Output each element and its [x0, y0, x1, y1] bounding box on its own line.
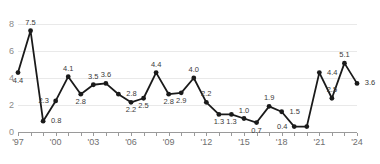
- data-point-label: 4.4: [320, 69, 344, 77]
- data-point-label: 2.9: [169, 97, 193, 105]
- data-point-label: 0.7: [245, 127, 269, 135]
- data-point-label: 1.0: [232, 107, 256, 115]
- data-point-label: 3.6: [358, 79, 380, 87]
- data-point-label: 0.4: [270, 123, 294, 131]
- data-point-label: 4.4: [6, 77, 30, 85]
- data-point-label: 3.6: [94, 71, 118, 79]
- data-point-label: 4.4: [144, 61, 168, 69]
- data-point-label: 2.5: [132, 102, 156, 110]
- data-point-label: 2.2: [194, 90, 218, 98]
- data-point-label: 5.1: [332, 51, 356, 59]
- data-point-label: 0.8: [44, 117, 68, 125]
- data-point-label: 1.5: [283, 108, 307, 116]
- data-point-label: 7.5: [19, 19, 43, 27]
- data-point-label: 2.8: [119, 90, 143, 98]
- data-point-label: 2.5: [320, 86, 344, 94]
- data-point-label: 4.0: [182, 66, 206, 74]
- data-point-label: 2.8: [69, 98, 93, 106]
- data-point-label: 1.9: [257, 94, 281, 102]
- data-point-label: 1.3: [219, 118, 243, 126]
- data-point-label: 4.1: [56, 65, 80, 73]
- data-point-label: 2.3: [32, 97, 56, 105]
